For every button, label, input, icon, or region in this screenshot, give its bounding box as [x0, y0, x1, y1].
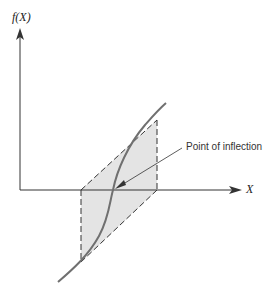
y-axis-label: f(X) — [12, 10, 31, 25]
inflection-annotation: Point of inflection — [186, 141, 262, 152]
shaded-region — [81, 120, 157, 262]
x-axis-label: X — [246, 182, 253, 197]
